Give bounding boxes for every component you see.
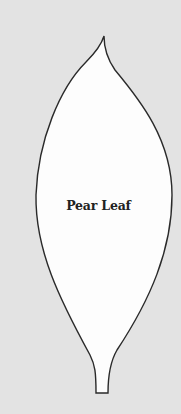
leaf-label: Pear Leaf <box>0 198 181 213</box>
